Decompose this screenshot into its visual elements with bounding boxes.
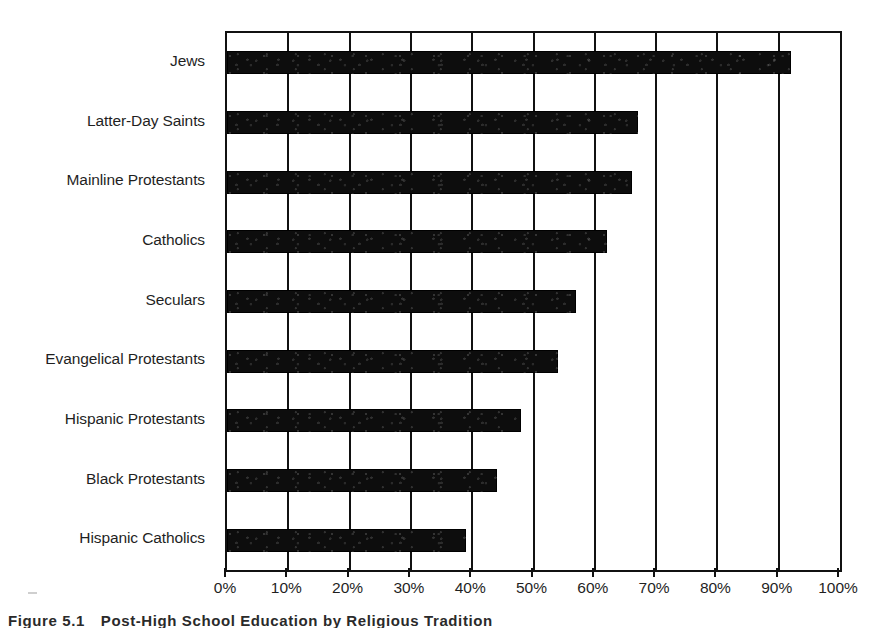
x-axis-tick bbox=[285, 568, 287, 577]
x-axis-tick bbox=[776, 568, 778, 577]
category-label: Evangelical Protestants bbox=[45, 351, 205, 367]
x-axis-tick-labels: 0%10%20%30%40%50%60%70%80%90%100% bbox=[0, 580, 874, 602]
bar bbox=[227, 469, 497, 492]
figure-caption-text: Post-High School Education by Religious … bbox=[101, 612, 493, 628]
bar bbox=[227, 51, 791, 74]
x-axis-tick-marks bbox=[225, 568, 838, 577]
x-axis-tick-label: 50% bbox=[516, 580, 547, 596]
x-axis-tick bbox=[837, 568, 839, 577]
x-axis-tick-label: 30% bbox=[393, 580, 424, 596]
x-axis-tick bbox=[347, 568, 349, 577]
x-axis-tick-label: 100% bbox=[818, 580, 858, 596]
bar bbox=[227, 350, 558, 373]
x-axis-tick-label: 0% bbox=[214, 580, 236, 596]
category-label: Black Protestants bbox=[86, 471, 205, 487]
x-axis-tick bbox=[653, 568, 655, 577]
plot-area bbox=[225, 31, 842, 572]
x-axis-tick-label: 80% bbox=[700, 580, 731, 596]
x-axis-tick bbox=[408, 568, 410, 577]
bar bbox=[227, 111, 638, 134]
x-axis-tick bbox=[592, 568, 594, 577]
x-axis-tick bbox=[531, 568, 533, 577]
bar bbox=[227, 290, 576, 313]
x-axis-tick-label: 10% bbox=[271, 580, 302, 596]
bar bbox=[227, 171, 632, 194]
figure-container: JewsLatter-Day SaintsMainline Protestant… bbox=[0, 0, 874, 628]
category-label: Jews bbox=[170, 53, 205, 69]
category-label: Seculars bbox=[145, 292, 205, 308]
category-label: Mainline Protestants bbox=[67, 172, 205, 188]
figure-caption-clip: Figure 5.1Post-High School Education by … bbox=[0, 612, 874, 628]
x-axis-tick-label: 60% bbox=[577, 580, 608, 596]
category-label: Hispanic Catholics bbox=[79, 530, 205, 546]
category-label: Catholics bbox=[142, 232, 205, 248]
category-label: Latter-Day Saints bbox=[87, 113, 205, 129]
x-axis-tick bbox=[224, 568, 226, 577]
bar bbox=[227, 230, 607, 253]
x-axis-tick bbox=[714, 568, 716, 577]
x-axis-tick-label: 20% bbox=[332, 580, 363, 596]
category-label: Hispanic Protestants bbox=[65, 411, 205, 427]
figure-caption: Figure 5.1Post-High School Education by … bbox=[8, 612, 493, 628]
bar bbox=[227, 529, 466, 552]
category-axis-labels: JewsLatter-Day SaintsMainline Protestant… bbox=[0, 31, 215, 568]
scan-artifact-speck bbox=[28, 592, 37, 594]
x-axis-tick-label: 40% bbox=[455, 580, 486, 596]
bar bbox=[227, 409, 521, 432]
figure-caption-number: Figure 5.1 bbox=[8, 612, 85, 628]
bar-series bbox=[227, 33, 840, 570]
x-axis-tick-label: 70% bbox=[639, 580, 670, 596]
x-axis-tick-label: 90% bbox=[761, 580, 792, 596]
x-axis-tick bbox=[469, 568, 471, 577]
